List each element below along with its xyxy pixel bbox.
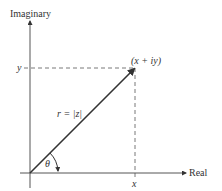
angle-label: θ [45, 158, 50, 169]
imaginary-axis-label: Imaginary [10, 8, 51, 19]
point-label: (x + iy) [131, 55, 162, 67]
x-tick-label: x [131, 178, 137, 189]
complex-plane-diagram: Imaginary Real (x + iy) r = |z| θ x y [0, 0, 222, 191]
y-tick-label: y [16, 62, 22, 73]
angle-arc [50, 153, 58, 171]
real-axis-label: Real [189, 167, 208, 178]
vector-label: r = |z| [57, 108, 82, 119]
